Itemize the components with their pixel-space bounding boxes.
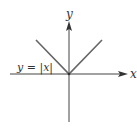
y-axis-label: y <box>65 7 73 21</box>
function-label: y = |x| <box>16 61 53 75</box>
origin-point <box>68 73 71 76</box>
x-axis-label: x <box>130 67 137 81</box>
graph: x y y = |x| <box>0 0 137 133</box>
